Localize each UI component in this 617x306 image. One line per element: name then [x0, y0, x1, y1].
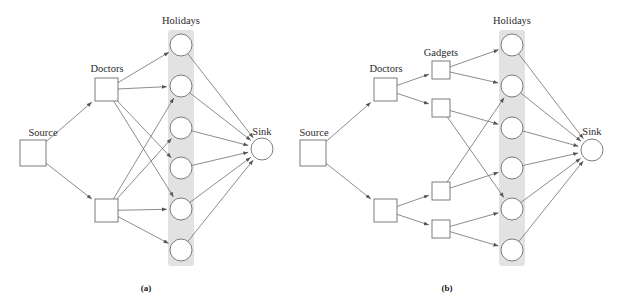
edge-doctors0-to-holidays1: [118, 87, 167, 89]
edge-gadgets3-to-holidays5: [450, 232, 498, 246]
node-doctor-1[interactable]: [374, 78, 397, 101]
edge-holidays5-to-sink: [519, 161, 583, 241]
edge-holidays3-to-sink: [523, 153, 578, 165]
node-sink[interactable]: [251, 138, 273, 160]
label-doctors: Doctors: [90, 63, 123, 74]
edge-holidays0-to-sink: [519, 54, 584, 139]
edge-doctors0-to-holidays0: [118, 52, 169, 82]
edge-holidays2-to-sink: [192, 131, 249, 146]
panel-caption-a: (a): [141, 283, 152, 293]
node-source[interactable]: [20, 140, 46, 166]
edge-holidays1-to-sink: [521, 93, 581, 141]
edge-holidays4-to-sink: [521, 158, 581, 202]
label-holidays: Holidays: [493, 15, 531, 26]
node-gadget-2[interactable]: [432, 99, 450, 117]
label-source: Source: [299, 127, 328, 138]
label-group: SourceDoctorsGadgetsHolidaysSink: [299, 15, 602, 138]
node-group: [300, 34, 603, 261]
node-gadget-4[interactable]: [432, 220, 450, 238]
edge-doctors1-to-gadgets2: [397, 195, 429, 206]
edge-holidays0-to-sink: [188, 54, 254, 138]
edge-doctors1-to-holidays1: [113, 98, 173, 199]
edge-gadgets2-to-holidays3: [450, 172, 498, 188]
edge-gadgets3-to-holidays4: [450, 213, 498, 227]
edge-holidays3-to-sink: [192, 152, 248, 165]
label-group: SourceDoctorsHolidaysSink: [28, 15, 272, 138]
label-sink: Sink: [252, 126, 272, 137]
node-holiday-6[interactable]: [170, 239, 192, 261]
node-group: [20, 34, 273, 261]
edge-gadgets1-to-holidays4: [447, 117, 504, 197]
node-holiday-2[interactable]: [170, 75, 192, 97]
edge-group: [46, 52, 253, 243]
node-holiday-5[interactable]: [170, 198, 192, 220]
edge-doctors1-to-holidays4: [118, 209, 167, 210]
edge-gadgets2-to-holidays1: [447, 98, 504, 182]
node-gadget-1[interactable]: [432, 61, 450, 79]
node-holiday-6[interactable]: [501, 239, 523, 261]
label-gadgets: Gadgets: [424, 47, 458, 58]
label-sink: Sink: [582, 126, 602, 137]
panel-b: SourceDoctorsGadgetsHolidaysSink(b): [299, 15, 603, 293]
edge-source-to-doctors1: [46, 163, 92, 199]
diagram-canvas: SourceDoctorsHolidaysSink(a)SourceDoctor…: [0, 0, 617, 306]
node-holiday-1[interactable]: [170, 34, 192, 56]
holidays-highlight-band: [168, 30, 194, 266]
edge-holidays1-to-sink: [190, 93, 251, 141]
node-holiday-2[interactable]: [501, 75, 523, 97]
label-holidays: Holidays: [162, 15, 200, 26]
figure-flow-network-diagram: SourceDoctorsHolidaysSink(a)SourceDoctor…: [0, 0, 617, 306]
edge-holidays5-to-sink: [188, 160, 253, 241]
label-doctors: Doctors: [369, 63, 402, 74]
panel-a: SourceDoctorsHolidaysSink(a): [20, 15, 273, 293]
edge-holidays2-to-sink: [523, 131, 579, 146]
node-holiday-4[interactable]: [170, 157, 192, 179]
node-doctor-2[interactable]: [95, 199, 118, 222]
holidays-highlight-band: [499, 30, 525, 266]
panel-caption-b: (b): [442, 283, 453, 293]
edge-source-to-doctors0: [326, 102, 371, 141]
edge-doctors1-to-holidays5: [118, 217, 168, 244]
node-sink[interactable]: [581, 139, 603, 161]
node-holiday-3[interactable]: [170, 117, 192, 139]
edge-doctors1-to-gadgets3: [397, 214, 429, 225]
node-source[interactable]: [300, 140, 326, 166]
node-doctor-1[interactable]: [95, 78, 118, 101]
label-source: Source: [28, 127, 57, 138]
edge-group: [326, 50, 583, 246]
node-doctor-2[interactable]: [374, 199, 397, 222]
edge-doctors0-to-holidays3: [117, 101, 171, 158]
node-holiday-1[interactable]: [501, 34, 523, 56]
node-holiday-3[interactable]: [501, 117, 523, 139]
edge-gadgets0-to-holidays1: [450, 72, 498, 83]
edge-doctors0-to-gadgets1: [397, 93, 429, 104]
node-gadget-3[interactable]: [432, 182, 450, 200]
node-holiday-5[interactable]: [501, 198, 523, 220]
edge-doctors0-to-gadgets0: [397, 74, 429, 85]
node-holiday-4[interactable]: [501, 157, 523, 179]
edge-source-to-doctors1: [326, 163, 371, 199]
